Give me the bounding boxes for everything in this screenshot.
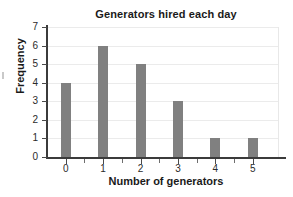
x-axis-minor-tick [84,159,85,163]
y-axis-tick [42,101,47,102]
x-axis-minor-tick [159,159,160,163]
y-axis-tick [42,83,47,84]
bar-chart-figure: Generators hired each day Frequency 0123… [0,0,293,197]
gridline [47,83,278,84]
x-axis-minor-tick [234,159,235,163]
x-axis-tick-label: 2 [132,164,150,174]
y-axis-tick [42,27,47,28]
y-axis-tick-label: 3 [24,96,38,106]
y-axis-tick-label: 0 [24,152,38,162]
bar [173,101,183,157]
gridline [47,46,278,47]
gridline [47,27,278,28]
x-axis-tick-label: 5 [244,164,262,174]
x-axis-tick-label: 3 [169,164,187,174]
y-axis-tick [42,64,47,65]
x-axis-tick-label: 0 [57,164,75,174]
gridline [47,64,278,65]
y-axis-tick [42,120,47,121]
bar [210,138,220,157]
x-axis-tick-label: 1 [94,164,112,174]
x-axis-line [46,157,286,159]
y-axis-tick-label: 6 [24,41,38,51]
chart-title: Generators hired each day [46,8,286,20]
plot-area [47,27,279,157]
bar [248,138,258,157]
y-axis-tick-label: 5 [24,59,38,69]
y-axis-tick [42,157,47,158]
y-axis-tick [42,138,47,139]
y-axis-tick-label: 2 [24,115,38,125]
y-axis-tick-label: 4 [24,78,38,88]
gridline [47,120,278,121]
bar [61,83,71,157]
bar [98,46,108,157]
gridline [47,138,278,139]
bar [136,64,146,157]
y-axis-tick [42,46,47,47]
x-axis-minor-tick [197,159,198,163]
edge-artifact [2,72,4,79]
y-axis-tick-label: 1 [24,133,38,143]
x-axis-title: Number of generators [46,175,286,187]
x-axis-tick-label: 4 [206,164,224,174]
x-axis-minor-tick [122,159,123,163]
gridline [47,101,278,102]
y-axis-tick-label: 7 [24,22,38,32]
